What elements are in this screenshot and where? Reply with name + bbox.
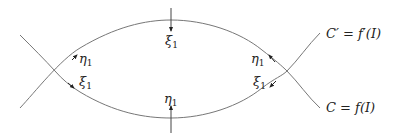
left-xi-arrow bbox=[68, 83, 74, 88]
label-c: C = f(I) bbox=[326, 100, 375, 115]
label-left-xi: ξ1 bbox=[79, 74, 92, 91]
label-c-prime: C′ = f′(I) bbox=[326, 26, 381, 41]
label-bottom-eta: η1 bbox=[164, 91, 178, 108]
label-right-eta: η1 bbox=[251, 51, 265, 68]
label-top-xi: ξ1 bbox=[165, 33, 178, 50]
label-left-eta: η1 bbox=[79, 51, 93, 68]
left-eta-arrow bbox=[72, 55, 77, 60]
label-right-xi: ξ1 bbox=[253, 74, 266, 91]
lens-diagram: ξ1 η1 η1 ξ1 η1 ξ1 C′ = f′(I) C = f(I) bbox=[0, 0, 405, 135]
right-eta-arrow bbox=[269, 55, 275, 62]
